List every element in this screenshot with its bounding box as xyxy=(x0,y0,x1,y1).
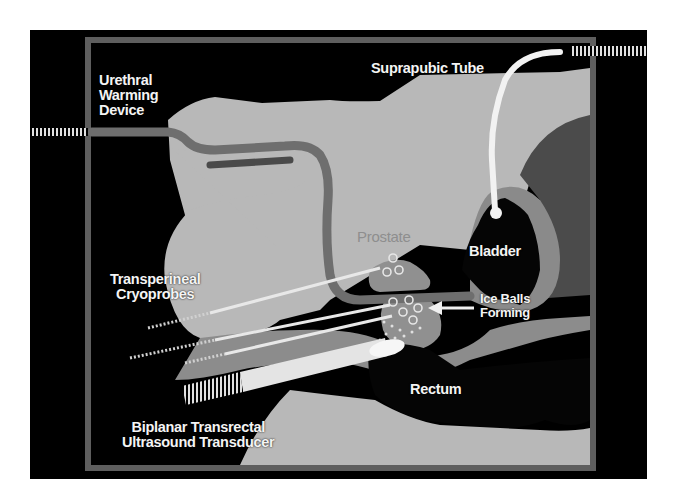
warming-device-hatch xyxy=(32,128,88,136)
label-line: Ice Balls xyxy=(480,292,530,306)
cryosurgery-diagram: Urethral Warming Device Suprapubic Tube … xyxy=(0,0,675,501)
label-prostate: Prostate xyxy=(357,229,410,244)
label-urethral-warming-device: Urethral Warming Device xyxy=(99,73,158,118)
label-line: Cryoprobes xyxy=(110,287,200,302)
label-line: Warming xyxy=(99,88,158,103)
label-line: Biplanar Transrectal xyxy=(122,420,274,435)
label-line: Forming xyxy=(480,306,530,320)
label-line: Ultrasound Transducer xyxy=(122,435,274,450)
label-ice-balls-forming: Ice Balls Forming xyxy=(480,292,530,320)
label-line: Device xyxy=(99,103,158,118)
label-rectum: Rectum xyxy=(410,382,461,397)
label-suprapubic-tube: Suprapubic Tube xyxy=(371,61,484,76)
suprapubic-tube-hatch xyxy=(570,46,647,56)
label-line: Transperineal xyxy=(110,272,200,287)
label-biplanar-transducer: Biplanar Transrectal Ultrasound Transduc… xyxy=(122,420,274,450)
urethral-lumen xyxy=(210,160,290,165)
label-line: Urethral xyxy=(99,73,158,88)
suprapubic-tube-tip xyxy=(490,207,502,219)
label-transperineal-cryoprobes: Transperineal Cryoprobes xyxy=(110,272,200,302)
label-bladder: Bladder xyxy=(469,244,521,259)
